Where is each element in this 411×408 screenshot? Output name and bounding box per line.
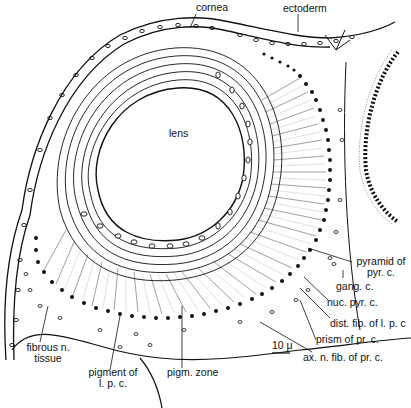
label-pigment-of-lpc: pigment of l. p. c.	[82, 367, 144, 389]
label-lens: lens	[169, 128, 188, 139]
label-pigment-line2: l. p. c.	[82, 378, 144, 389]
label-gang-c: gang. c.	[336, 281, 373, 292]
label-pyramid-of-pyr-c: pyramid of pyr. c.	[352, 256, 410, 278]
label-fibrous-n-tissue: fibrous n. tissue	[18, 342, 78, 364]
label-nuc-pyr-c: nuc. pyr. c.	[327, 297, 378, 308]
label-scale-bar: 10 μ	[272, 340, 293, 351]
label-fibrous-line2: tissue	[18, 353, 78, 364]
label-dist-fib-of-lpc: dist. fib. of l. p. c	[330, 318, 406, 329]
label-ax-n-fib-of-pr-c: ax. n. fib. of pr. c.	[303, 352, 383, 363]
label-cornea: cornea	[196, 2, 228, 13]
label-pyramid-line2: pyr. c.	[352, 267, 410, 278]
label-ectoderm: ectoderm	[283, 3, 327, 14]
label-prism-of-pr-c: prism of pr. c.	[316, 334, 379, 345]
label-pigm-zone: pigm. zone	[167, 367, 218, 378]
